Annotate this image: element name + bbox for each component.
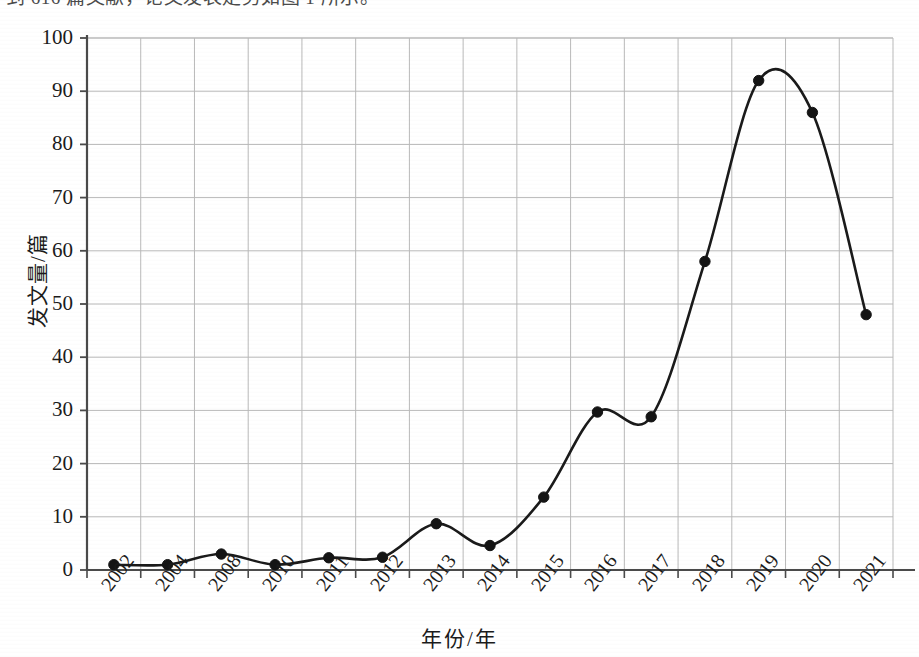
grid-lines bbox=[87, 38, 893, 570]
data-point-marker bbox=[539, 492, 549, 502]
data-point-marker bbox=[807, 107, 817, 117]
data-line bbox=[114, 69, 866, 565]
y-tick-label: 90 bbox=[17, 80, 73, 101]
y-tick-label: 100 bbox=[17, 27, 73, 48]
series-line-path bbox=[114, 69, 866, 565]
y-tick-label: 30 bbox=[17, 399, 73, 420]
data-point-marker bbox=[753, 75, 763, 85]
y-tick-label: 0 bbox=[17, 559, 73, 580]
data-point-marker bbox=[431, 519, 441, 529]
x-axis-title: 年份/年 bbox=[0, 622, 919, 652]
data-point-marker bbox=[700, 256, 710, 266]
y-tick-label: 20 bbox=[17, 453, 73, 474]
y-tick-label: 80 bbox=[17, 133, 73, 154]
data-point-marker bbox=[592, 407, 602, 417]
data-point-marker bbox=[646, 412, 656, 422]
y-axis-title: 发文量/篇 bbox=[28, 201, 49, 361]
tick-marks bbox=[80, 38, 893, 578]
data-markers bbox=[109, 75, 872, 570]
data-point-marker bbox=[485, 540, 495, 550]
y-tick-label: 10 bbox=[17, 506, 73, 527]
chart-figure: 0102030405060708090100 20022004200820102… bbox=[0, 0, 919, 657]
line-chart-canvas bbox=[0, 0, 919, 657]
data-point-marker bbox=[861, 309, 871, 319]
axis-lines bbox=[87, 35, 915, 570]
